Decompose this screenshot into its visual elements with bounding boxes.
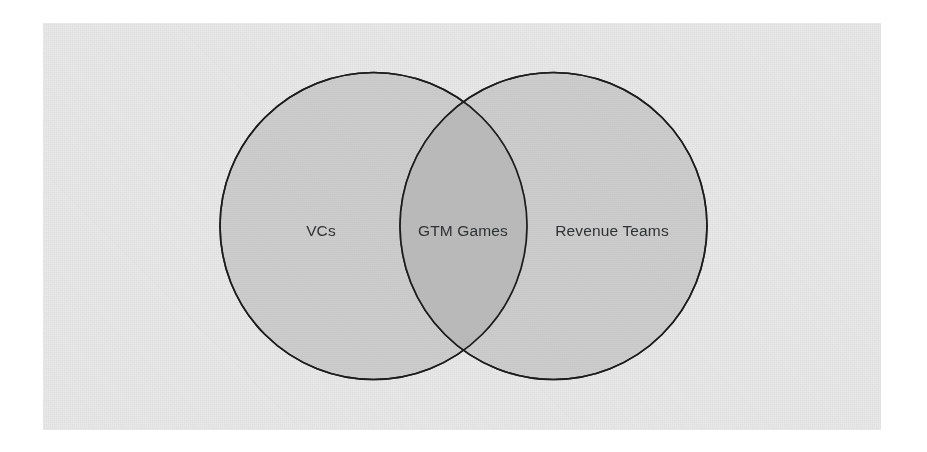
venn-label-intersection: GTM Games [418,222,508,239]
venn-label-left: VCs [306,222,336,239]
venn-label-right: Revenue Teams [555,222,669,239]
venn-diagram: VCs GTM Games Revenue Teams [0,0,927,452]
diagram-stage: VCs GTM Games Revenue Teams [0,0,927,452]
